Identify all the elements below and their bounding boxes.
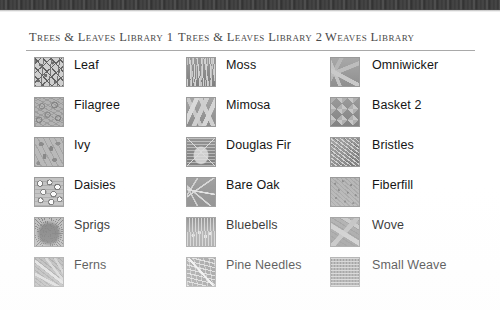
swatch-row[interactable]: Sprigs [34,217,184,257]
texture-swatch-moss[interactable] [186,57,216,87]
column-header-2: Trees & Leaves Library 2 [178,30,322,45]
column-header-3: Weaves Library [325,30,415,45]
swatch-label: Ferns [74,258,106,272]
swatch-row[interactable]: Mimosa [186,97,336,137]
swatch-label: Filagree [74,98,120,112]
texture-swatch-ferns[interactable] [34,257,64,287]
texture-swatch-basket2[interactable] [330,97,360,127]
texture-swatch-douglasfir[interactable] [186,137,216,167]
swatch-label: Pine Needles [226,258,302,272]
texture-swatch-omniwicker[interactable] [330,57,360,87]
swatch-row[interactable]: Omniwicker [330,57,480,97]
column-headers: Trees & Leaves Library 1 Trees & Leaves … [0,30,500,46]
swatch-row[interactable]: Fiberfill [330,177,480,217]
swatch-row[interactable]: Daisies [34,177,184,217]
swatch-label: Wove [372,218,404,232]
texture-swatch-sprigs[interactable] [34,217,64,247]
swatch-row[interactable]: Ferns [34,257,184,297]
swatch-label: Bristles [372,138,414,152]
swatch-label: Sprigs [74,218,110,232]
swatch-row[interactable]: Bluebells [186,217,336,257]
swatch-row[interactable]: Basket 2 [330,97,480,137]
swatch-row[interactable]: Ivy [34,137,184,177]
texture-swatch-bluebells[interactable] [186,217,216,247]
texture-swatch-filagree[interactable] [34,97,64,127]
swatch-label: Basket 2 [372,98,421,112]
swatch-label: Small Weave [372,258,447,272]
swatch-label: Douglas Fir [226,138,291,152]
swatch-label: Leaf [74,58,99,72]
swatch-label: Ivy [74,138,90,152]
swatch-column-1: LeafFilagreeIvyDaisiesSprigsFerns [34,57,184,297]
swatch-label: Fiberfill [372,178,413,192]
swatch-row[interactable]: Bristles [330,137,480,177]
texture-swatch-fiberfill[interactable] [330,177,360,207]
column-header-1: Trees & Leaves Library 1 [29,30,173,45]
texture-swatch-ivy[interactable] [34,137,64,167]
texture-swatch-wove[interactable] [330,217,360,247]
swatch-label: Mimosa [226,98,270,112]
swatch-row[interactable]: Moss [186,57,336,97]
swatch-label: Bluebells [226,218,278,232]
texture-swatch-mimosa[interactable] [186,97,216,127]
texture-swatch-daisies[interactable] [34,177,64,207]
scan-edge-artifact [0,0,500,10]
swatch-row[interactable]: Filagree [34,97,184,137]
swatch-row[interactable]: Douglas Fir [186,137,336,177]
swatch-column-2: MossMimosaDouglas FirBare OakBluebellsPi… [186,57,336,297]
header-divider-rule [26,50,475,51]
swatch-row[interactable]: Leaf [34,57,184,97]
swatch-column-3: OmniwickerBasket 2BristlesFiberfillWoveS… [330,57,480,297]
texture-swatch-bareoak[interactable] [186,177,216,207]
texture-swatch-smallweave[interactable] [330,257,360,287]
texture-swatch-leaf[interactable] [34,57,64,87]
swatch-row[interactable]: Small Weave [330,257,480,297]
swatch-label: Bare Oak [226,178,280,192]
swatch-label: Omniwicker [372,58,438,72]
swatch-row[interactable]: Wove [330,217,480,257]
texture-swatch-bristles[interactable] [330,137,360,167]
swatch-label: Daisies [74,178,116,192]
texture-swatch-pineneedles[interactable] [186,257,216,287]
swatch-row[interactable]: Pine Needles [186,257,336,297]
swatch-row[interactable]: Bare Oak [186,177,336,217]
swatch-label: Moss [226,58,256,72]
